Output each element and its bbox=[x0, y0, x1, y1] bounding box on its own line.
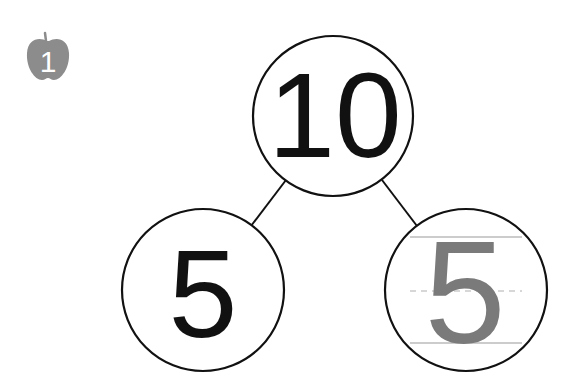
problem-number: 1 bbox=[40, 45, 57, 78]
bond-line-left bbox=[251, 180, 286, 226]
apple-icon: 1 bbox=[27, 33, 69, 80]
worksheet-canvas: 1 10 5 5 bbox=[0, 0, 561, 385]
part-circle-left: 5 bbox=[122, 209, 284, 371]
whole-circle: 10 bbox=[253, 36, 413, 196]
part-value-right-tracing: 5 bbox=[424, 211, 505, 374]
whole-value: 10 bbox=[268, 48, 401, 182]
part-circle-right[interactable]: 5 bbox=[385, 209, 547, 374]
part-value-left: 5 bbox=[169, 225, 238, 363]
bond-line-right bbox=[382, 180, 417, 226]
